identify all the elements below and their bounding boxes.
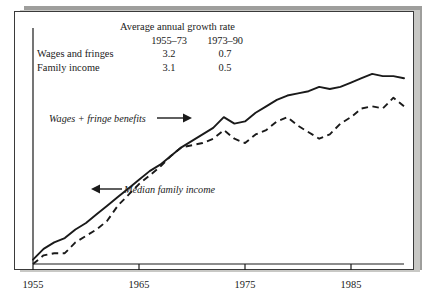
series-wages-fringe-benefits	[33, 74, 404, 260]
x-axis-ticks	[33, 264, 351, 270]
x-axis-tick-label: 1965	[129, 279, 150, 290]
growth-rate-table: Average annual growth rate 1955–73 1973–…	[37, 20, 252, 75]
growth-table-header-row: 1955–73 1973–90	[37, 34, 252, 48]
growth-value-family-income-1973-90: 0.5	[197, 61, 253, 75]
x-axis-tick-label: 1985	[341, 279, 362, 290]
growth-column-header-1: 1955–73	[141, 34, 197, 48]
growth-table-title: Average annual growth rate	[37, 20, 252, 34]
growth-table-row: Family income 3.1 0.5	[37, 61, 252, 75]
annotation-wages-fringe-benefits: Wages + fringe benefits	[49, 113, 146, 124]
growth-row-label-wages: Wages and fringes	[37, 47, 141, 61]
figure-container: Average annual growth rate 1955–73 1973–…	[0, 0, 427, 301]
growth-value-family-income-1955-73: 3.1	[141, 61, 197, 75]
x-axis-tick-label: 1955	[23, 279, 44, 290]
series-group	[33, 74, 404, 264]
annotation-median-family-income: Median family income	[124, 184, 215, 195]
growth-column-header-2: 1973–90	[197, 34, 253, 48]
arrow-to-income-line	[91, 185, 122, 194]
growth-table-row: Wages and fringes 3.2 0.7	[37, 47, 252, 61]
growth-row-label-family-income: Family income	[37, 61, 141, 75]
growth-header-spacer	[37, 34, 141, 48]
annotation-arrows	[91, 114, 192, 194]
x-axis-tick-label: 1975	[235, 279, 256, 290]
growth-value-wages-1973-90: 0.7	[197, 47, 253, 61]
growth-value-wages-1955-73: 3.2	[141, 47, 197, 61]
arrow-to-wages-line	[157, 114, 192, 123]
